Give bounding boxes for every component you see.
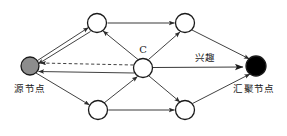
node-top-left[interactable]: [88, 14, 107, 33]
sink-node-label: 汇聚节点: [233, 83, 275, 94]
node-bottom-left[interactable]: [89, 101, 108, 120]
edge-center-to-top-left: [103, 31, 138, 60]
edge-center-to-source-solid: [39, 72, 135, 74]
node-center[interactable]: [134, 59, 153, 78]
source-node-label: 源节点: [14, 83, 45, 94]
edge-top-left-to-source: [38, 32, 91, 65]
center-node-label: C: [139, 44, 147, 55]
edge-center-to-sink-interest: [153, 67, 244, 68]
edge-center-to-bottom-right: [149, 76, 180, 102]
node-top-right[interactable]: [176, 14, 195, 33]
interest-edge-label: 兴趣: [195, 52, 216, 63]
node-bottom-right[interactable]: [176, 101, 195, 120]
diagram-canvas: C 源节点 汇聚节点 兴趣: [0, 0, 287, 136]
edge-center-to-top-right: [149, 32, 181, 60]
edge-source-to-top-left: [38, 28, 89, 61]
node-source[interactable]: [21, 57, 39, 75]
edge-bottom-left-to-center: [104, 77, 138, 104]
edge-center-to-source-dashed: [41, 63, 134, 65]
node-sink[interactable]: [246, 56, 266, 76]
network-diagram: C 源节点 汇聚节点 兴趣: [0, 0, 287, 136]
